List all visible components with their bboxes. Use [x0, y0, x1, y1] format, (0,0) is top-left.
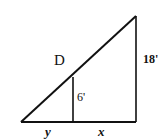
label-y: y — [43, 124, 51, 139]
hypotenuse — [21, 16, 136, 122]
label-x: x — [97, 124, 105, 139]
label-large-height: 18' — [143, 52, 158, 66]
label-d: D — [54, 52, 65, 68]
triangle-diagram: D 6' 18' y x — [0, 0, 162, 139]
label-small-height: 6' — [77, 90, 85, 104]
